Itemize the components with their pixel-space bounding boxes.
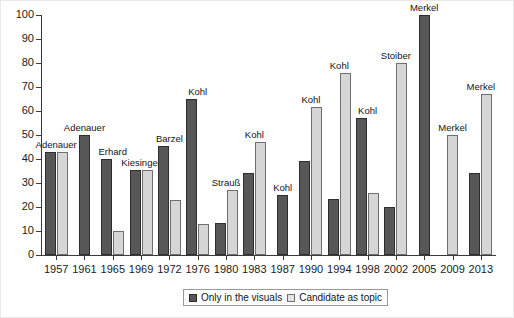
y-axis-tick-label-wrap: 50 bbox=[1, 129, 34, 140]
bar-only-in-the-visuals bbox=[186, 99, 197, 255]
legend-label: Only in the visuals bbox=[201, 292, 282, 303]
y-axis-tick-label: 70 bbox=[4, 81, 34, 92]
y-axis-tick bbox=[36, 111, 41, 112]
x-axis-tick bbox=[339, 256, 340, 260]
y-axis-tick bbox=[36, 39, 41, 40]
x-axis-tick-label: 2005 bbox=[408, 263, 440, 275]
x-axis-tick-label: 1972 bbox=[153, 263, 185, 275]
bar-only-in-the-visuals bbox=[328, 199, 339, 255]
y-axis-tick-label-wrap: 30 bbox=[1, 177, 34, 188]
y-axis-tick-label: 100 bbox=[4, 9, 34, 20]
legend-entry: Only in the visuals bbox=[189, 292, 282, 303]
x-axis-tick-label: 1980 bbox=[210, 263, 242, 275]
bar-only-in-the-visuals bbox=[215, 223, 226, 255]
bar-annotation-label: Adenauer bbox=[54, 123, 114, 133]
bar-annotation-label: Kohl bbox=[168, 87, 228, 97]
y-axis-tick-label: 80 bbox=[4, 57, 34, 68]
bar-candidate-as-topic bbox=[368, 193, 379, 255]
x-axis-tick-label: 1961 bbox=[68, 263, 100, 275]
y-axis-tick bbox=[36, 87, 41, 88]
x-axis-tick bbox=[113, 256, 114, 260]
bar-candidate-as-topic bbox=[396, 63, 407, 255]
x-axis-tick-label: 1983 bbox=[238, 263, 270, 275]
y-axis-tick-label-wrap: 90 bbox=[1, 33, 34, 44]
bar-candidate-as-topic bbox=[142, 170, 153, 255]
y-axis-tick bbox=[36, 63, 41, 64]
x-axis-tick bbox=[424, 256, 425, 260]
y-axis-tick-label: 10 bbox=[4, 225, 34, 236]
y-axis-tick bbox=[36, 159, 41, 160]
x-axis-tick-label: 1976 bbox=[182, 263, 214, 275]
bar-candidate-as-topic bbox=[255, 142, 266, 255]
y-axis-tick-label: 90 bbox=[4, 33, 34, 44]
bar-candidate-as-topic bbox=[170, 200, 181, 255]
bar-annotation-label: Kohl bbox=[309, 61, 369, 71]
y-axis-tick-label: 50 bbox=[4, 129, 34, 140]
x-axis-tick-label: 1969 bbox=[125, 263, 157, 275]
bar-only-in-the-visuals bbox=[384, 207, 395, 255]
y-axis-tick-label-wrap: 80 bbox=[1, 57, 34, 68]
chart-screenshot: 0102030405060708090100 19571961196519691… bbox=[0, 0, 514, 318]
y-axis-tick-label: 40 bbox=[4, 153, 34, 164]
dark-swatch-icon bbox=[189, 294, 197, 302]
bar-candidate-as-topic bbox=[198, 224, 209, 255]
y-axis-tick bbox=[36, 207, 41, 208]
x-axis-tick bbox=[198, 256, 199, 260]
bar-only-in-the-visuals bbox=[469, 173, 480, 255]
bar-annotation-label: Kohl bbox=[338, 106, 398, 116]
x-axis-tick-label: 1957 bbox=[40, 263, 72, 275]
bar-candidate-as-topic bbox=[481, 94, 492, 255]
bar-annotation-label: Kohl bbox=[224, 130, 284, 140]
bar-annotation-label: Erhard bbox=[83, 147, 143, 157]
x-axis-tick-label: 1965 bbox=[97, 263, 129, 275]
y-axis-tick-label: 60 bbox=[4, 105, 34, 116]
y-axis-tick-label-wrap: 40 bbox=[1, 153, 34, 164]
y-axis-tick-label: 0 bbox=[4, 249, 34, 260]
bar-only-in-the-visuals bbox=[101, 159, 112, 255]
y-axis-tick bbox=[36, 135, 41, 136]
legend-label: Candidate as topic bbox=[299, 292, 382, 303]
bar-annotation-label: Adenauer bbox=[26, 140, 86, 150]
bar-candidate-as-topic bbox=[340, 73, 351, 255]
y-axis-tick-label-wrap: 0 bbox=[1, 249, 34, 260]
y-axis-tick-label: 20 bbox=[4, 201, 34, 212]
x-axis-tick bbox=[84, 256, 85, 260]
x-axis-tick bbox=[283, 256, 284, 260]
x-axis-tick-label: 1998 bbox=[352, 263, 384, 275]
y-axis-tick-label-wrap: 70 bbox=[1, 81, 34, 92]
x-axis-tick bbox=[453, 256, 454, 260]
legend-entry: Candidate as topic bbox=[287, 292, 382, 303]
bar-only-in-the-visuals bbox=[299, 161, 310, 255]
bar-only-in-the-visuals bbox=[277, 195, 288, 255]
y-axis-tick bbox=[36, 231, 41, 232]
bar-annotation-label: Merkel bbox=[423, 123, 483, 133]
x-axis-tick-label: 1987 bbox=[267, 263, 299, 275]
x-axis-tick bbox=[56, 256, 57, 260]
x-axis-tick-label: 1994 bbox=[323, 263, 355, 275]
bar-candidate-as-topic bbox=[113, 231, 124, 255]
x-axis-tick-label: 2009 bbox=[437, 263, 469, 275]
y-axis-tick bbox=[36, 255, 41, 256]
x-axis-tick bbox=[311, 256, 312, 260]
bar-annotation-label: Merkel bbox=[394, 3, 454, 13]
bar-candidate-as-topic bbox=[311, 107, 322, 255]
x-axis-tick bbox=[226, 256, 227, 260]
x-axis-tick bbox=[254, 256, 255, 260]
x-axis-tick bbox=[368, 256, 369, 260]
bar-only-in-the-visuals bbox=[158, 146, 169, 255]
light-swatch-icon bbox=[287, 294, 295, 302]
x-axis-tick-label: 2002 bbox=[380, 263, 412, 275]
chart-legend: Only in the visualsCandidate as topic bbox=[183, 289, 388, 306]
bar-candidate-as-topic bbox=[447, 135, 458, 255]
bar-annotation-label: Merkel bbox=[451, 82, 511, 92]
y-axis-tick-label-wrap: 20 bbox=[1, 201, 34, 212]
y-axis-tick-label-wrap: 100 bbox=[1, 9, 34, 20]
x-axis-tick bbox=[169, 256, 170, 260]
x-axis-tick bbox=[396, 256, 397, 260]
x-axis-tick-label: 1990 bbox=[295, 263, 327, 275]
y-axis-tick bbox=[36, 15, 41, 16]
bar-candidate-as-topic bbox=[57, 152, 68, 255]
bar-only-in-the-visuals bbox=[130, 170, 141, 255]
x-axis-tick bbox=[481, 256, 482, 260]
y-axis-tick bbox=[36, 183, 41, 184]
